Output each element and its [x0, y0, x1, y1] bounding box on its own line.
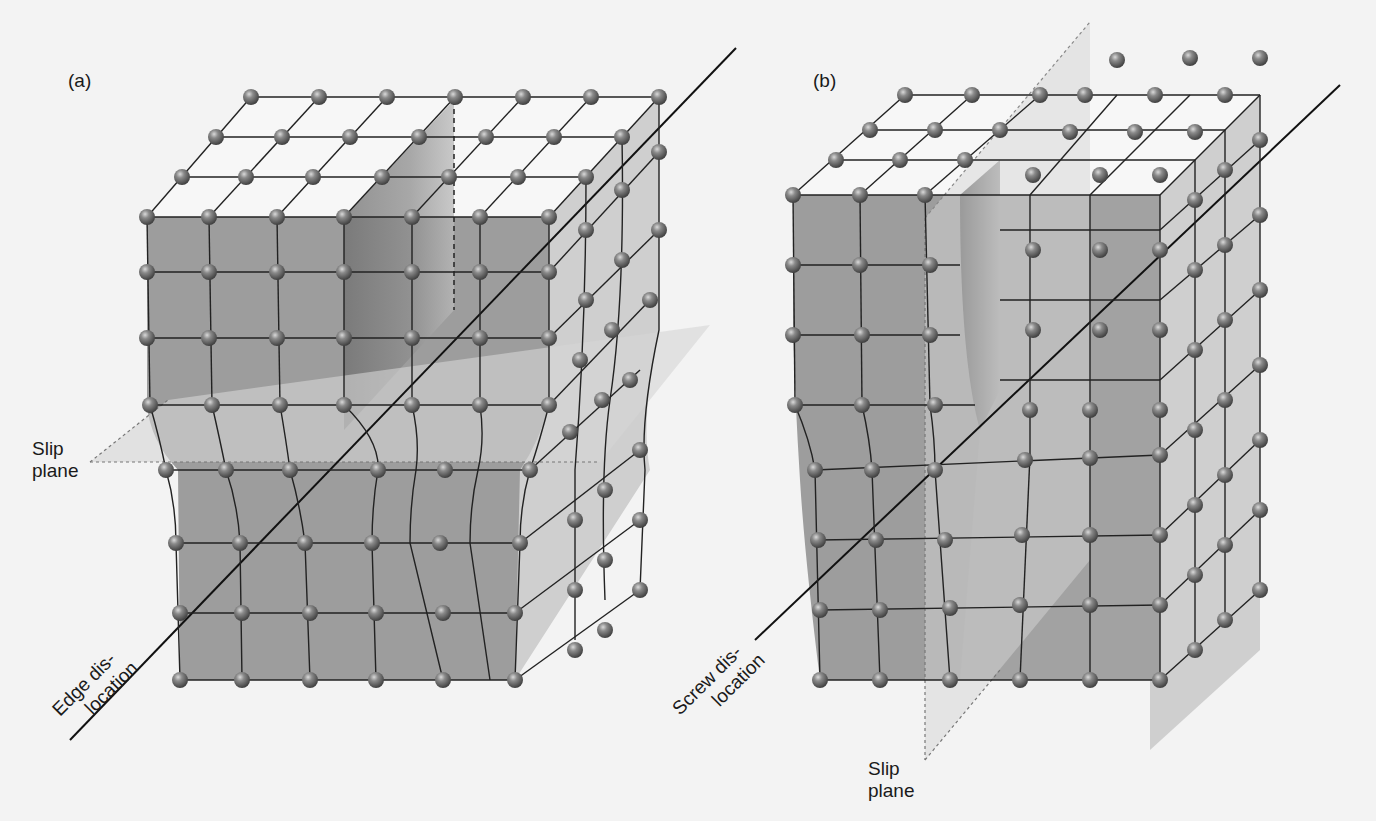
slip-plane-label-a: Slip plane	[32, 438, 79, 482]
panel-a-label: (a)	[68, 70, 91, 92]
slip-plane-label-line1: Slip	[32, 438, 79, 460]
side-face	[1150, 95, 1260, 750]
slip-plane-label-b: Slip plane	[868, 758, 915, 802]
slip-plane-label-line1: Slip	[868, 758, 915, 780]
panel-b-label: (b)	[813, 70, 836, 92]
slip-plane-label-line2: plane	[868, 780, 915, 802]
panel-a-edge-dislocation	[70, 48, 736, 740]
panel-b-screw-dislocation	[755, 22, 1340, 760]
slip-plane-label-line2: plane	[32, 460, 79, 482]
figure-canvas: (a) (b) Slip plane Edge dis- location Sc…	[0, 0, 1376, 821]
